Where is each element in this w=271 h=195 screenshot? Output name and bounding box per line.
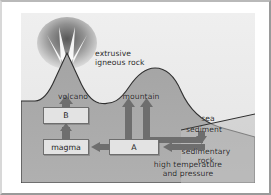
- label-sediment: sediment: [173, 125, 235, 134]
- rock-cycle-diagram: extrusive igneous rock volcano mountain …: [21, 13, 255, 183]
- image-frame: extrusive igneous rock volcano mountain …: [0, 0, 271, 195]
- label-mountain: mountain: [111, 92, 171, 101]
- label-heat-line1: high temperature: [154, 160, 222, 169]
- label-extrusive-line1: extrusive: [95, 49, 131, 58]
- label-extrusive-igneous-rock: extrusive igneous rock: [95, 49, 145, 67]
- label-high-temperature-and-pressure: high temperature and pressure: [140, 160, 236, 178]
- label-heat-line2: and pressure: [163, 169, 214, 178]
- box-b: B: [43, 107, 89, 124]
- label-sedimentary-line1: sedimentary: [182, 147, 231, 156]
- box-a: A: [109, 139, 159, 155]
- box-magma: magma: [43, 139, 89, 155]
- label-sea: sea: [181, 114, 235, 123]
- label-extrusive-line2: igneous rock: [95, 58, 145, 67]
- label-volcano: volcano: [46, 92, 100, 101]
